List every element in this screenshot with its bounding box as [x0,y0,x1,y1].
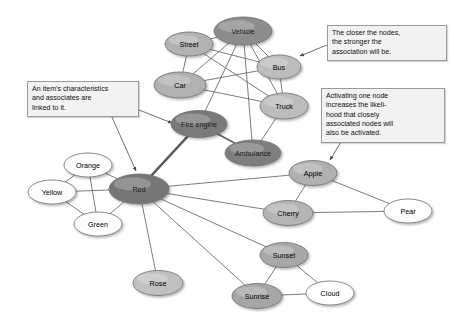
node-yellow[interactable]: Yellow [28,180,76,204]
annotation-line: the stronger the [332,38,442,47]
node-label-bus: Bus [273,63,286,72]
node-rose[interactable]: Rose [133,271,183,296]
edge-truck-ambulance [261,118,276,140]
node-label-rose: Rose [150,279,167,288]
edge-bus-truck [281,79,283,93]
edge-orange-green [90,177,96,212]
annotation-leader-ann-item-characteristics [111,115,136,171]
edge-street-car [183,56,187,72]
annotation-activating-node: Activating one nodeincreases the likeli-… [321,88,445,143]
node-sunset[interactable]: Sunset [260,243,308,268]
edge-red-rose [142,204,155,271]
annotation-line: The closer the nodes, [332,29,442,38]
node-vehicle[interactable]: Vehicle [214,17,272,45]
diagram-canvas: VehicleStreetBusCarTruckFire engineAmbul… [0,0,454,326]
node-label-vehicle: Vehicle [231,27,254,36]
edge-orange-yellow [65,175,74,182]
edge-red-green [110,202,124,214]
node-red[interactable]: Red [109,174,169,204]
edge-sunset-sunrise [265,267,276,284]
node-label-cherry: Cherry [277,209,299,218]
node-bus[interactable]: Bus [257,55,301,79]
edge-street-bus [210,49,259,61]
node-label-green: Green [88,220,108,229]
node-label-pear: Pear [400,207,416,216]
node-car[interactable]: Car [154,72,206,98]
annotation-leader-ann-item-characteristics [139,110,172,123]
node-pear[interactable]: Pear [384,199,432,223]
edge-apple-pear [332,181,389,204]
edge-vehicle-bus [256,44,269,57]
annotation-line: also be activated. [326,129,440,138]
edge-yellow-green [66,202,84,215]
edge-red-cherry [168,194,265,210]
edge-vehicle-street [211,37,217,39]
node-label-apple: Apple [304,169,322,178]
edge-apple-cherry [295,185,305,201]
annotation-leader-ann-activating-node [330,142,341,160]
edge-cherry-pear [313,211,384,212]
edge-red-orange [105,173,117,179]
edge-fire-engine-ambulance [218,134,235,143]
node-sunrise[interactable]: Sunrise [232,284,282,309]
annotation-line: hood that closely [326,111,440,120]
node-label-sunrise: Sunrise [245,292,269,301]
node-cherry[interactable]: Cherry [263,201,313,226]
node-fire-engine[interactable]: Fire engine [171,111,227,138]
node-truck[interactable]: Truck [260,93,308,119]
annotation-closer-nodes: The closer the nodes,the stronger theass… [327,25,447,61]
node-ambulance[interactable]: Ambulance [225,140,281,166]
node-orange[interactable]: Orange [64,153,112,177]
node-label-red: Red [132,185,145,194]
node-label-fire-engine: Fire engine [181,120,217,129]
edge-sunrise-cloud [282,294,306,295]
node-label-yellow: Yellow [42,188,63,197]
annotation-item-characteristics: An item's characteristicsand associates … [27,81,139,117]
node-label-sunset: Sunset [273,251,295,260]
edge-sunset-cloud [297,266,318,283]
annotation-line: increases the likeli- [326,101,440,110]
annotation-leader-ann-closer-nodes [300,45,327,56]
node-label-orange: Orange [76,161,100,170]
node-street[interactable]: Street [165,32,213,56]
node-green[interactable]: Green [74,212,122,236]
annotation-line: association will be. [332,48,442,57]
node-label-truck: Truck [275,102,293,111]
annotation-line: and associates are [32,94,134,103]
node-apple[interactable]: Apple [289,161,337,186]
annotation-line: associated nodes will [326,120,440,129]
node-label-cloud: Cloud [321,289,340,298]
node-label-car: Car [174,81,186,90]
node-label-ambulance: Ambulance [235,149,271,158]
edge-fire-engine-red [152,136,188,175]
node-cloud[interactable]: Cloud [306,281,354,305]
edge-layer [65,37,389,295]
edge-red-apple [169,175,290,186]
annotation-line: linked to it. [32,104,134,113]
node-label-street: Street [179,40,198,49]
edge-car-bus [204,71,258,81]
annotation-line: Activating one node [326,92,440,101]
annotation-line: An item's characteristics [32,85,134,94]
